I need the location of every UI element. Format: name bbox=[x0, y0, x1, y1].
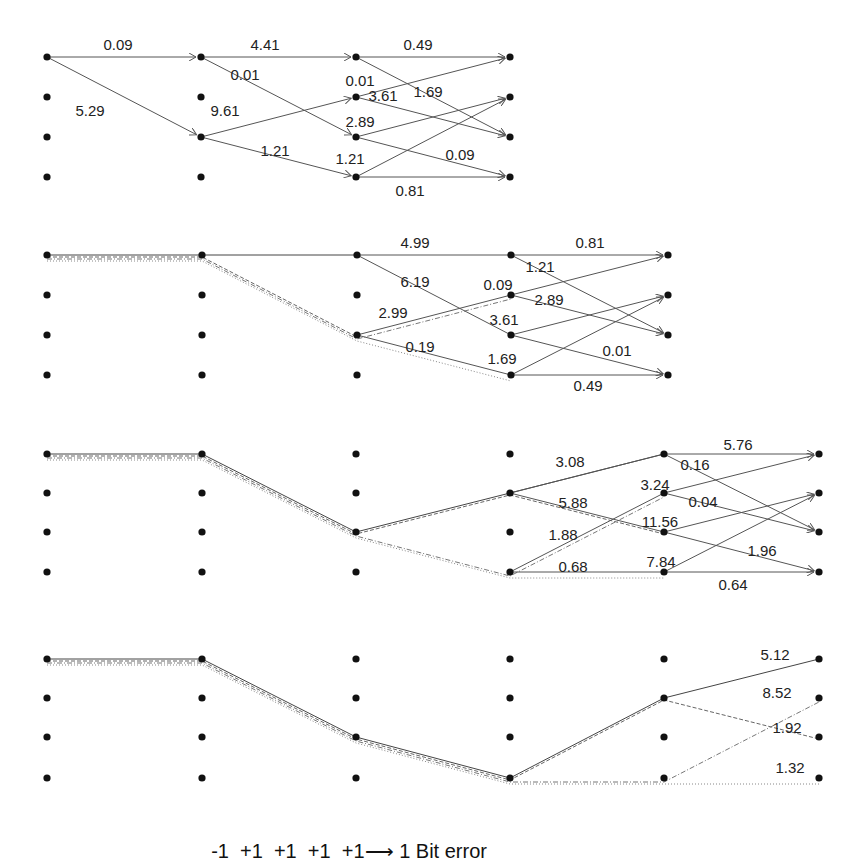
branch-edge bbox=[356, 99, 506, 177]
trellis-node bbox=[43, 251, 50, 258]
branch-edge bbox=[201, 57, 352, 135]
branch-metric-label: 0.16 bbox=[680, 456, 709, 473]
trellis-node bbox=[353, 371, 360, 378]
branch-metric-label: 0.19 bbox=[405, 338, 434, 355]
branch-edge bbox=[356, 98, 505, 137]
trellis-node bbox=[506, 133, 513, 140]
branch-metric-label: 0.49 bbox=[573, 377, 602, 394]
branch-edge bbox=[664, 495, 815, 572]
trellis-node bbox=[507, 371, 514, 378]
trellis-node bbox=[506, 53, 513, 60]
branch-metric-label: 0.09 bbox=[103, 36, 132, 53]
trellis-node bbox=[43, 450, 50, 457]
branch-metric-label: 9.61 bbox=[210, 102, 239, 119]
trellis-node bbox=[352, 489, 359, 496]
trellis-node bbox=[664, 331, 671, 338]
trellis-node bbox=[43, 331, 50, 338]
branch-edge bbox=[356, 137, 505, 176]
trellis-node bbox=[506, 173, 513, 180]
trellis-node bbox=[660, 450, 667, 457]
branch-metric-label: 1.96 bbox=[747, 542, 776, 559]
branch-metric-label: 11.56 bbox=[642, 513, 678, 530]
branch-metric-label: 4.41 bbox=[250, 36, 279, 53]
caption-sequence: -1 +1 +1 +1 +1 bbox=[211, 840, 364, 862]
branch-metric-label: 0.09 bbox=[483, 276, 512, 293]
branch-metric-label: 1.21 bbox=[525, 258, 554, 275]
trellis-node bbox=[197, 133, 204, 140]
trellis-node bbox=[660, 774, 667, 781]
trellis-node bbox=[815, 528, 822, 535]
trellis-node bbox=[352, 133, 359, 140]
trellis-node bbox=[352, 450, 359, 457]
trellis-node bbox=[43, 173, 50, 180]
trellis-node bbox=[660, 694, 667, 701]
branch-metric-label: 7.84 bbox=[646, 553, 675, 570]
branch-edge bbox=[357, 255, 511, 335]
trellis-node bbox=[815, 568, 822, 575]
branch-metric-label: 0.64 bbox=[718, 576, 747, 593]
branch-edge bbox=[664, 494, 814, 532]
trellis-node bbox=[198, 733, 205, 740]
trellis-node bbox=[352, 694, 359, 701]
branch-metric-label: 2.89 bbox=[534, 291, 563, 308]
trellis-panel-stage-3: 3.085.881.880.685.760.163.240.0411.561.9… bbox=[43, 436, 822, 593]
survivor-path-dot bbox=[47, 261, 511, 381]
trellis-node bbox=[660, 655, 667, 662]
trellis-node bbox=[660, 489, 667, 496]
branch-metric-label: 0.49 bbox=[403, 36, 432, 53]
trellis-node bbox=[197, 53, 204, 60]
trellis-node bbox=[198, 528, 205, 535]
trellis-node bbox=[506, 93, 513, 100]
trellis-node bbox=[352, 173, 359, 180]
trellis-panel-stage-1: 0.095.294.410.019.611.210.491.690.013.61… bbox=[43, 36, 513, 199]
trellis-node bbox=[352, 568, 359, 575]
caption: -1 +1 +1 +1 +1⟶ 1 Bit error bbox=[200, 816, 487, 863]
trellis-node bbox=[198, 291, 205, 298]
path-metric-label: 5.12 bbox=[760, 646, 789, 663]
branch-metric-label: 0.81 bbox=[575, 234, 604, 251]
trellis-node bbox=[506, 450, 513, 457]
trellis-node bbox=[43, 93, 50, 100]
trellis-node bbox=[198, 655, 205, 662]
trellis-node bbox=[43, 291, 50, 298]
trellis-node bbox=[815, 733, 822, 740]
branch-metric-label: 2.99 bbox=[378, 304, 407, 321]
branch-edge bbox=[511, 335, 663, 374]
branch-metric-label: 2.89 bbox=[345, 113, 374, 130]
trellis-node bbox=[353, 331, 360, 338]
trellis-node bbox=[352, 93, 359, 100]
trellis-node bbox=[506, 774, 513, 781]
trellis-node bbox=[43, 733, 50, 740]
trellis-node bbox=[352, 655, 359, 662]
trellis-diagram: 0.095.294.410.019.611.210.491.690.013.61… bbox=[0, 0, 863, 864]
branch-metric-label: 3.61 bbox=[368, 87, 397, 104]
trellis-node bbox=[507, 251, 514, 258]
branch-edge bbox=[664, 493, 814, 531]
trellis-node bbox=[43, 694, 50, 701]
branch-metric-label: 0.01 bbox=[602, 342, 631, 359]
branch-metric-label: 3.08 bbox=[555, 453, 584, 470]
panels-layer: 0.095.294.410.019.611.210.491.690.013.61… bbox=[43, 36, 822, 784]
trellis-node bbox=[506, 655, 513, 662]
trellis-node bbox=[506, 568, 513, 575]
trellis-node bbox=[664, 251, 671, 258]
path-metric-label: 1.32 bbox=[775, 759, 804, 776]
trellis-node bbox=[664, 371, 671, 378]
trellis-node bbox=[352, 53, 359, 60]
survivor-path-dashdot bbox=[47, 663, 819, 782]
trellis-node bbox=[43, 655, 50, 662]
trellis-node bbox=[198, 489, 205, 496]
trellis-node bbox=[506, 733, 513, 740]
trellis-node bbox=[815, 694, 822, 701]
trellis-node bbox=[506, 528, 513, 535]
trellis-node bbox=[506, 489, 513, 496]
trellis-node bbox=[506, 694, 513, 701]
trellis-node bbox=[352, 774, 359, 781]
branch-edge bbox=[511, 297, 664, 375]
trellis-node bbox=[198, 331, 205, 338]
caption-result: 1 Bit error bbox=[399, 840, 487, 862]
trellis-node bbox=[198, 694, 205, 701]
branch-metric-label: 3.61 bbox=[489, 311, 518, 328]
path-metric-label: 1.92 bbox=[772, 719, 801, 736]
trellis-node bbox=[43, 371, 50, 378]
